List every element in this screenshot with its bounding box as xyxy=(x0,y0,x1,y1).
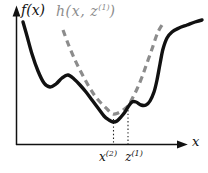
h-label-superscript: (1) xyxy=(98,3,109,12)
h-surrogate-curve xyxy=(63,25,162,114)
x-axis-arrowhead-icon xyxy=(177,141,188,149)
x2-base: x xyxy=(99,150,106,164)
surrogate-function-plot: f(x) h(x, z(1)) x x(2) z(1) xyxy=(0,0,208,173)
f-function-label-text: f(x) xyxy=(21,2,45,18)
plot-svg xyxy=(0,0,208,173)
h-surrogate-label: h(x, z(1)) xyxy=(56,4,116,19)
h-label-post: ) xyxy=(110,3,116,19)
x-axis-label: x xyxy=(192,135,199,149)
x2-tick-label: x(2) xyxy=(95,150,121,164)
z1-tick-label: z(1) xyxy=(121,150,147,164)
f-function-label: f(x) xyxy=(21,3,45,18)
x2-superscript: (2) xyxy=(106,149,117,158)
y-axis-arrowhead-icon xyxy=(13,6,21,17)
h-label-pre: h(x, z xyxy=(56,3,98,19)
f-function-curve xyxy=(23,20,202,122)
z1-superscript: (1) xyxy=(131,149,142,158)
x-axis-label-text: x xyxy=(192,134,199,149)
